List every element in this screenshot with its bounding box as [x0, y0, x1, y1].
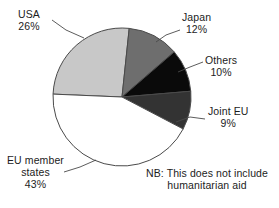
slice-label-eu-member-states: EU member states 43% [7, 155, 64, 190]
slice-label-others-pct: 10% [205, 67, 237, 79]
slice-label-others-name: Others [205, 55, 237, 67]
slice-label-joint-eu-name: Joint EU [208, 106, 248, 118]
slice-label-usa-name: USA [18, 9, 40, 21]
slice-label-joint-eu-pct: 9% [208, 118, 248, 130]
pie-slice-usa[interactable] [53, 28, 129, 97]
slice-label-joint-eu: Joint EU 9% [208, 106, 248, 130]
leader-line-usa [52, 20, 84, 38]
slice-label-eu-name-line2: states [7, 167, 64, 179]
chart-note: NB: This does not include humanitarian a… [146, 168, 268, 192]
slice-label-eu-name-line1: EU member [7, 155, 64, 167]
slice-label-usa: USA 26% [18, 9, 40, 33]
slice-label-others: Others 10% [205, 55, 237, 79]
leader-line-eu [64, 160, 96, 172]
pie-slices [53, 28, 191, 166]
chart-note-line2: humanitarian aid [146, 180, 268, 192]
slice-label-japan-name: Japan [182, 12, 211, 24]
slice-label-japan: Japan 12% [182, 12, 211, 36]
pie-chart-figure: USA 26% Japan 12% Others 10% Joint EU 9%… [0, 0, 279, 208]
slice-label-usa-pct: 26% [18, 21, 40, 33]
slice-label-eu-pct: 43% [7, 179, 64, 191]
chart-note-line1: NB: This does not include [146, 168, 268, 180]
slice-label-japan-pct: 12% [182, 24, 211, 36]
